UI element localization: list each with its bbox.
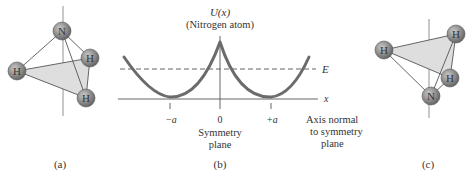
atom-hydrogen-bottom: H xyxy=(441,69,459,87)
panel-c-caption: (c) xyxy=(422,158,435,171)
y-axis-sublabel: (Nitrogen atom) xyxy=(186,19,254,31)
svg-text:H: H xyxy=(82,92,90,104)
svg-text:N: N xyxy=(427,90,435,102)
atom-nitrogen: N xyxy=(422,87,440,105)
axis-normal-label-2: to symmetry xyxy=(310,126,364,137)
symmetry-plane-label: Symmetry xyxy=(198,127,242,138)
svg-text:H: H xyxy=(86,52,94,64)
svg-text:H: H xyxy=(452,28,460,40)
axis-normal-label: Axis normal xyxy=(306,114,358,125)
potential-curve xyxy=(124,42,309,97)
tick-plus-a: +a xyxy=(266,114,278,125)
svg-text:N: N xyxy=(58,25,66,37)
svg-text:H: H xyxy=(446,72,454,84)
x-axis-label: x xyxy=(323,93,329,104)
tick-minus-a: −a xyxy=(165,114,177,125)
panel-c-inverted-ammonia-molecule: H H H N (c) xyxy=(375,19,465,171)
panel-b-potential-energy-plot: x E −a 0 +a U(x) (Nitrogen atom) Symmetr… xyxy=(118,6,364,171)
atom-hydrogen-top-right: H xyxy=(447,25,465,43)
panel-a-caption: (a) xyxy=(54,158,67,171)
atom-hydrogen-left: H xyxy=(8,62,26,80)
atom-nitrogen: N xyxy=(53,22,71,40)
atom-hydrogen-right: H xyxy=(81,49,99,67)
panel-a-ammonia-molecule: N H H H (a) xyxy=(8,6,99,171)
atom-hydrogen-left: H xyxy=(375,41,393,59)
symmetry-plane-label-2: plane xyxy=(209,139,232,150)
axis-normal-label-3: plane xyxy=(321,138,344,149)
energy-label: E xyxy=(321,63,329,75)
panel-b-caption: (b) xyxy=(214,158,227,171)
y-axis-label: U(x) xyxy=(210,6,230,19)
svg-text:H: H xyxy=(380,44,388,56)
tick-zero: 0 xyxy=(218,114,223,125)
svg-text:H: H xyxy=(13,65,21,77)
atom-hydrogen-bottom: H xyxy=(77,89,95,107)
